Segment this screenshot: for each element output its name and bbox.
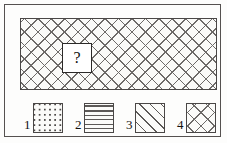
missing-piece-marker[interactable]: ? (62, 43, 92, 73)
answer-option-3-number: 3 (126, 118, 133, 134)
horizontal-lines-icon[interactable] (84, 103, 114, 133)
question-mark-label: ? (73, 50, 80, 66)
crosshatch-icon[interactable] (186, 103, 216, 133)
answer-option-1[interactable]: 1 (24, 100, 63, 134)
dot-grid-icon[interactable] (33, 103, 63, 133)
answer-option-2-number: 2 (75, 118, 82, 134)
answer-option-3[interactable]: 3 (126, 100, 165, 134)
answer-option-4-number: 4 (177, 118, 184, 134)
answer-option-1-number: 1 (24, 118, 31, 134)
main-pattern-panel: ? (20, 18, 217, 90)
puzzle-figure: ? 1 2 3 4 (0, 0, 227, 143)
figure-frame: ? 1 2 3 4 (4, 4, 221, 137)
answer-options-row: 1 2 3 4 (20, 100, 217, 134)
diagonal-lines-icon[interactable] (135, 103, 165, 133)
answer-option-4[interactable]: 4 (177, 100, 216, 134)
answer-option-2[interactable]: 2 (75, 100, 114, 134)
